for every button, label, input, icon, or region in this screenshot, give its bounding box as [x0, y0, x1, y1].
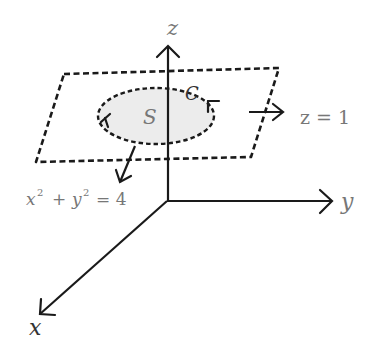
diagram-canvas: z y x S C z = 1 x 2 + y 2 = 4: [0, 0, 381, 351]
svg-text:x: x: [26, 189, 36, 209]
svg-text:y: y: [71, 189, 82, 209]
x-axis: [40, 201, 167, 314]
svg-text:+: +: [52, 189, 66, 209]
circle-pointer-arrow: [120, 146, 135, 182]
svg-text:2: 2: [83, 187, 89, 198]
circle-equation-label: x 2 + y 2 = 4: [26, 187, 126, 209]
plane-equation-label: z = 1: [300, 106, 350, 128]
curve-label: C: [185, 83, 199, 104]
x-axis-label: x: [29, 315, 42, 340]
svg-text:= 4: = 4: [96, 189, 126, 209]
y-axis-label: y: [340, 189, 354, 214]
z-axis-label: z: [166, 16, 179, 40]
svg-text:2: 2: [37, 187, 43, 198]
surface-label: S: [143, 105, 157, 129]
